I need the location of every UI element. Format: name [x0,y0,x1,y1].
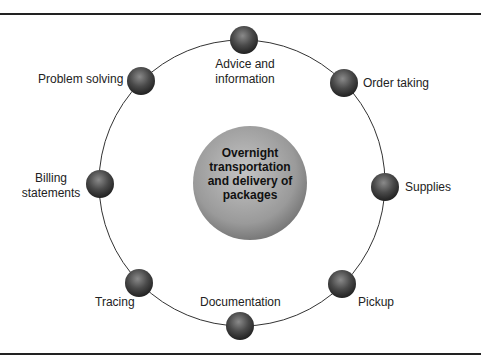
center-line: Overnight [193,146,307,160]
label-line: Advice and [205,57,285,72]
label-tracing: Tracing [95,295,135,310]
node-ball-advice [230,26,258,54]
label-supplies: Supplies [405,180,451,195]
label-line: Billing [20,171,82,186]
center-label: Overnight transportation and delivery of… [193,146,307,202]
node-ball-problem-solving [127,67,155,95]
node-ball-tracing [125,269,153,297]
label-line: information [205,72,285,87]
label-advice: Advice and information [205,57,285,87]
center-line: transportation [193,160,307,174]
label-pickup: Pickup [358,295,394,310]
node-ball-order-taking [330,69,358,97]
node-ball-documentation [226,312,254,340]
center-line: and delivery of [193,174,307,188]
node-ball-supplies [371,173,399,201]
label-problem-solving: Problem solving [38,72,123,87]
label-billing: Billing statements [20,171,82,201]
label-line: statements [20,186,82,201]
node-ball-pickup [328,270,356,298]
node-ball-billing [86,170,114,198]
center-line: packages [193,188,307,202]
label-order-taking: Order taking [363,76,429,91]
label-documentation: Documentation [200,295,281,310]
